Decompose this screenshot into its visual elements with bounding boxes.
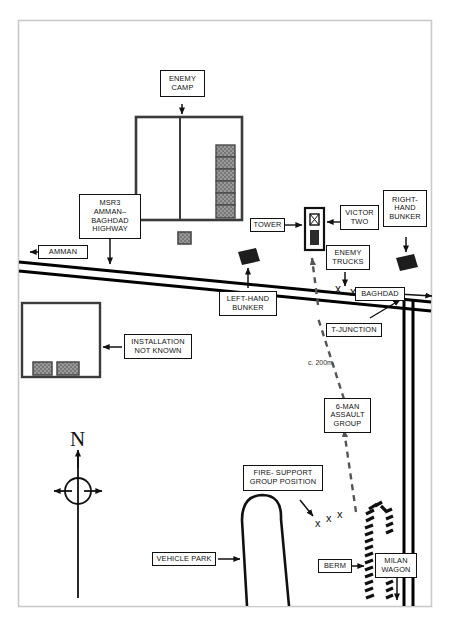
fire-support-mark: x (315, 518, 321, 529)
label-amman: AMMAN (38, 245, 88, 259)
fire-support-mark: x (337, 509, 343, 520)
camp-outbuilding (178, 232, 191, 244)
label-tower: TOWER (250, 218, 285, 232)
label-berm: BERM (318, 559, 352, 573)
installation-not-known-building (22, 303, 100, 377)
compass-rose (54, 450, 102, 598)
label-right-hand-bunker: RIGHT- HAND BUNKER (383, 190, 427, 227)
label-milan-wagon: MILAN WAGON (375, 553, 417, 578)
label-enemy-camp: ENEMY CAMP (160, 70, 205, 97)
label-installation-not-known: INSTALLATION NOT KNOWN (124, 334, 192, 359)
label-fire-support-group: FIRE- SUPPORT GROUP POSITION (243, 465, 323, 491)
label-distance-note: c. 200m (308, 359, 333, 366)
fire-support-mark: x (326, 513, 332, 524)
vehicle-park-shape (242, 495, 289, 606)
label-msr3-highway: MSR3 AMMAN– BAGHDAD HIGHWAY (79, 194, 141, 239)
enemy-truck-mark: x (350, 286, 356, 298)
label-baghdad: BAGHDAD (355, 287, 405, 301)
right-hand-bunker-symbol (396, 254, 418, 271)
enemy-truck-mark: x (335, 283, 341, 295)
label-vehicle-park: VEHICLE PARK (152, 552, 216, 566)
enemy-camp-compound (136, 117, 242, 244)
berm-barrier (365, 502, 393, 598)
north-letter: N (70, 429, 85, 450)
label-enemy-trucks: ENEMY TRUCKS (326, 245, 370, 270)
label-left-hand-bunker: LEFT-HAND BUNKER (219, 291, 277, 316)
watchtower (305, 208, 324, 250)
fire-support-pointer (300, 500, 313, 516)
label-assault-group: 6-MAN ASSAULT GROUP (324, 398, 371, 433)
left-hand-bunker-symbol (238, 248, 260, 265)
label-victor-two: VICTOR TWO (340, 205, 379, 230)
label-t-junction: T-JUNCTION (326, 323, 382, 337)
tactical-map: ENEMY CAMP MSR3 AMMAN– BAGHDAD HIGHWAY A… (0, 0, 450, 627)
camp-store-cells (216, 145, 235, 218)
